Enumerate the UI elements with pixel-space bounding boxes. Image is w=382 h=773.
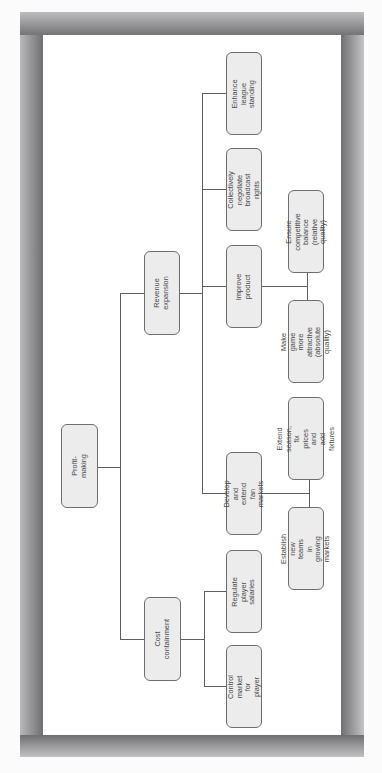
node-label: Establish new teams in growing markets (280, 534, 332, 564)
frame-edge-bottom (20, 735, 364, 757)
connector-improve-out (262, 286, 307, 287)
connector-develop-spine (309, 479, 310, 507)
connector-revenue-out (180, 293, 202, 294)
connector-revenue-spine (202, 93, 203, 494)
frame-edge-top (20, 12, 364, 35)
node-label: Develop and extend fan markets (223, 480, 266, 507)
node-regulate-player-salaries: Regulate player salaries (226, 550, 262, 633)
node-establish-new-teams: Establish new teams in growing markets (288, 507, 324, 590)
frame-edge-left (20, 12, 43, 757)
node-cost-containment: Cost containment (144, 597, 181, 681)
node-enhance-league-standing: Enhance league standing (226, 52, 262, 135)
node-label: Control market for player (227, 675, 261, 699)
connector-to-collectively (202, 189, 226, 190)
node-label: Make game more attractive (absolute qual… (280, 326, 332, 356)
node-ensure-competitive-balance: Ensure competitive balance (relative qua… (288, 190, 324, 273)
connector-improve-spine (307, 273, 308, 300)
connector-to-improve (202, 286, 226, 287)
connector-level2-spine (120, 293, 121, 639)
node-collectively-negotiate-broadcast-rights: Collectively negotiate broadcast rights (226, 148, 262, 231)
node-profit-making: Profit-making (61, 424, 98, 508)
node-make-game-more-attractive: Make game more attractive (absolute qual… (288, 300, 324, 383)
frame-edge-right (341, 12, 364, 757)
node-improve-product: Improve product (226, 245, 262, 328)
node-label: Enhance league standing (231, 79, 257, 108)
node-label: Collectively negotiate broadcast rights (227, 171, 261, 208)
connector-develop-out (262, 493, 309, 494)
node-label: Ensure competitive balance (relative qua… (285, 213, 328, 250)
node-label: Revenue expansion (153, 276, 170, 310)
connector-cost-spine (204, 591, 205, 687)
node-revenue-expansion: Revenue expansion (144, 251, 180, 335)
connector-to-revenue (120, 293, 144, 294)
connector-to-control (204, 686, 226, 687)
node-control-market-for-player: Control market for player (226, 645, 262, 728)
node-label: Profit-making (71, 454, 88, 478)
node-label: Cost containment (154, 619, 171, 659)
node-label: Regulate player salaries (231, 577, 257, 607)
connector-to-enhance (202, 93, 226, 94)
connector-root (98, 467, 120, 468)
node-label: Improve product (235, 273, 252, 300)
diagram-panel (43, 35, 341, 735)
node-develop-extend-fan-markets: Develop and extend fan markets (226, 452, 262, 535)
node-extend-season: Extend season, fix prices and add fixtur… (288, 397, 324, 480)
node-label: Extend season, fix prices and add fixtur… (276, 426, 336, 452)
connector-cost-out (181, 639, 204, 640)
connector-to-cost (120, 639, 144, 640)
connector-to-regulate (204, 591, 226, 592)
